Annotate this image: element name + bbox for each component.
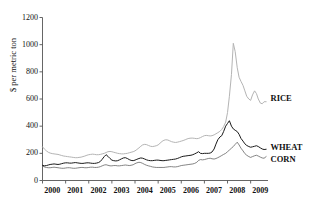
plot-canvas bbox=[0, 0, 311, 204]
series-label-corn: CORN bbox=[271, 155, 296, 164]
series-line-rice bbox=[43, 43, 267, 157]
series-label-rice: RICE bbox=[271, 94, 292, 103]
series-line-wheat bbox=[43, 121, 267, 166]
x-tick-label: 2009 bbox=[245, 186, 275, 195]
series-label-wheat: WHEAT bbox=[271, 143, 303, 152]
chart-figure: $ per metric ton 120010008006004002000 2… bbox=[0, 0, 311, 204]
